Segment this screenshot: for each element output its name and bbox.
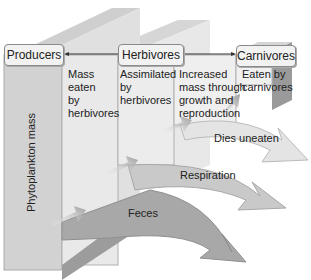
growth-line-2: mass through: [179, 81, 246, 94]
growth-line-3: growth and: [179, 94, 246, 107]
assimilated-line-3: herbivores: [120, 94, 176, 107]
producers-node: Producers: [4, 44, 64, 66]
carnivores-node: Carnivores: [236, 45, 296, 67]
dies-uneaten-label: Dies uneaten: [214, 132, 279, 145]
eaten-by-carnivores-label: Eaten by carnivores: [242, 68, 293, 94]
mass-eaten-line-3: by: [68, 94, 119, 107]
eaten-line-1: Eaten by: [242, 68, 293, 81]
assimilated-line-1: Assimilated: [120, 68, 176, 81]
mass-eaten-line-1: Mass: [68, 68, 119, 81]
mass-eaten-label: Mass eaten by herbivores: [68, 68, 119, 120]
growth-line-4: reproduction: [179, 107, 246, 120]
herbivores-node: Herbivores: [118, 44, 184, 66]
feces-label: Feces: [128, 207, 158, 220]
mass-eaten-line-2: eaten: [68, 81, 119, 94]
eaten-line-2: carnivores: [242, 81, 293, 94]
mass-eaten-line-4: herbivores: [68, 107, 119, 120]
phytoplankton-mass-label: Phytoplankton mass: [25, 113, 37, 212]
growth-line-1: Increased: [179, 68, 246, 81]
respiration-label: Respiration: [180, 169, 236, 182]
assimilated-line-2: by: [120, 81, 176, 94]
assimilated-label: Assimilated by herbivores: [120, 68, 176, 107]
growth-label: Increased mass through growth and reprod…: [179, 68, 246, 120]
